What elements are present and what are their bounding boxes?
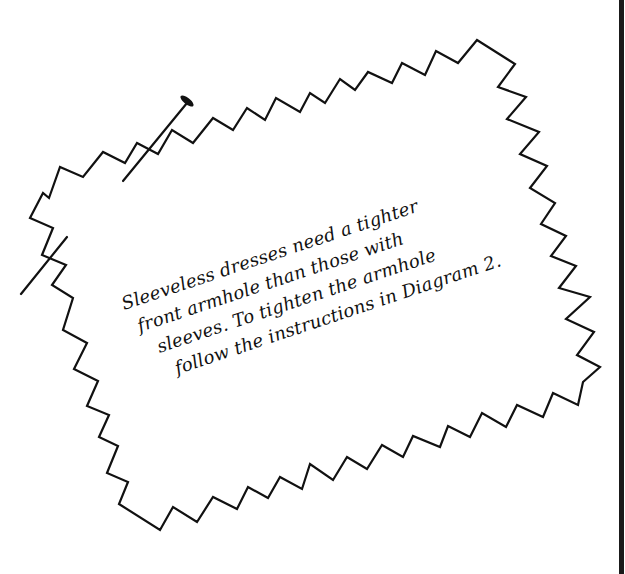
page-edge-bar — [619, 0, 624, 574]
